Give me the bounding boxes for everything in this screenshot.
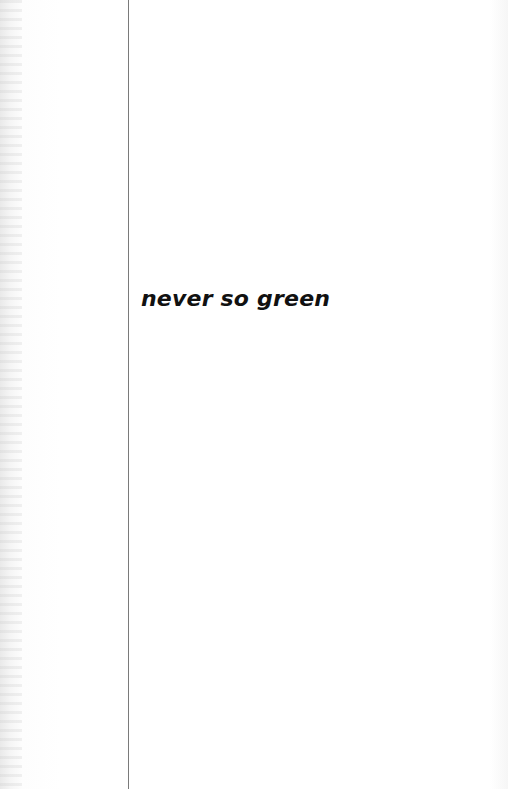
page-title: never so green	[141, 286, 330, 311]
book-page: never so green	[0, 0, 508, 789]
vertical-rule	[128, 0, 129, 789]
page-edge-shadow	[0, 0, 22, 789]
